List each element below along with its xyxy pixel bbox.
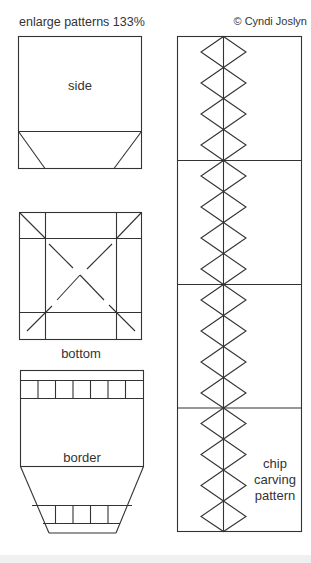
side-label: side [18, 78, 142, 94]
chip-label-line-1: chip [250, 456, 300, 472]
bottom-band [0, 555, 311, 563]
bottom-pattern [20, 213, 142, 340]
bottom-label: bottom [19, 346, 143, 362]
border-label: border [20, 450, 144, 466]
chip-carving-label: chip carving pattern [250, 456, 300, 504]
chip-label-line-3: pattern [250, 488, 300, 504]
chip-label-line-2: carving [250, 472, 300, 488]
side-pattern [19, 37, 142, 169]
